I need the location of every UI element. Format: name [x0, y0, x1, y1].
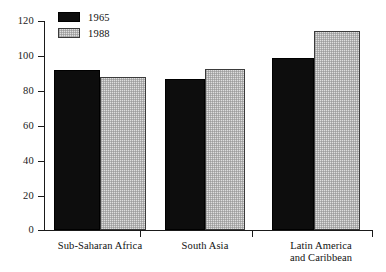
bar-chart: 120 100 80 60 40 20 0 Sub-Saharan Africa… [0, 0, 386, 272]
legend-label-1965: 1965 [88, 12, 110, 23]
legend: 1965 1988 [58, 10, 110, 42]
y-tick-label-100: 100 [18, 51, 34, 61]
legend-swatch-1965-icon [58, 12, 80, 22]
y-tick-label-20: 20 [23, 191, 34, 201]
y-tick-60 [38, 126, 44, 127]
x-axis-line [44, 230, 373, 231]
x-tick-2 [252, 231, 253, 237]
y-tick-label-0: 0 [29, 225, 34, 235]
y-tick-label-40: 40 [23, 156, 34, 166]
y-tick-20 [38, 196, 44, 197]
bar-south-asia-1965 [165, 79, 205, 230]
y-tick-label-80: 80 [23, 86, 34, 96]
y-tick-120 [38, 21, 44, 22]
y-tick-label-120: 120 [18, 16, 34, 26]
legend-item-1965: 1965 [58, 10, 110, 24]
legend-item-1988: 1988 [58, 26, 110, 40]
bar-sub-saharan-africa-1965 [54, 70, 100, 230]
x-tick-1 [140, 231, 141, 237]
y-tick-0 [38, 230, 44, 231]
x-tick-3 [372, 231, 373, 237]
legend-label-1988: 1988 [88, 28, 110, 39]
bar-latin-america-1965 [272, 58, 314, 230]
bar-sub-saharan-africa-1988 [100, 77, 146, 230]
y-tick-40 [38, 161, 44, 162]
y-tick-label-60: 60 [23, 121, 34, 131]
bar-south-asia-1988 [205, 69, 245, 230]
y-tick-80 [38, 91, 44, 92]
y-tick-100 [38, 56, 44, 57]
legend-swatch-1988-icon [58, 28, 80, 38]
bar-latin-america-1988 [314, 31, 360, 230]
y-axis-line [44, 21, 45, 231]
x-category-label-south-asia: South Asia [148, 240, 262, 252]
x-category-label-latin-america-and-caribbean: Latin America and Caribbean [262, 240, 380, 264]
